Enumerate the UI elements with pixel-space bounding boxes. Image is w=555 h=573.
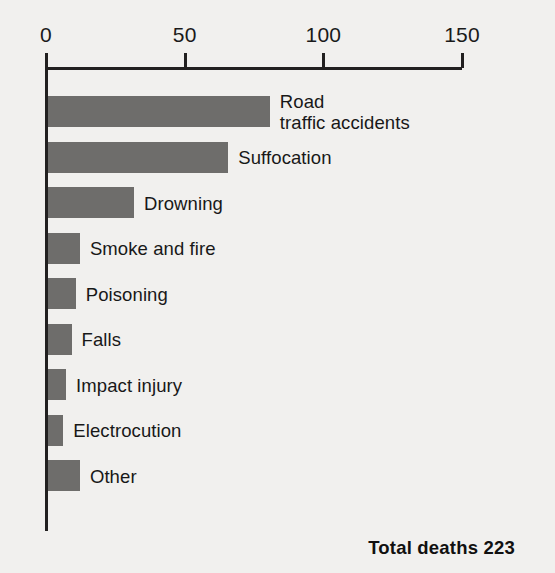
bar-label: Drowning: [144, 192, 223, 213]
bar-label: Suffocation: [238, 147, 331, 168]
bar-chart-figure: 050100150 Road traffic accidentsSuffocat…: [0, 0, 555, 573]
bar-label: Smoke and fire: [90, 238, 216, 259]
bar-label: Other: [90, 465, 137, 486]
bar-row[interactable]: Falls: [48, 324, 555, 355]
bar-rect[interactable]: [48, 187, 134, 218]
bar-rect[interactable]: [48, 415, 63, 446]
bar-row[interactable]: Drowning: [48, 187, 555, 218]
bar-row[interactable]: Road traffic accidents: [48, 96, 555, 127]
bar-row[interactable]: Impact injury: [48, 369, 555, 400]
bar-rect[interactable]: [48, 233, 80, 264]
bar-rect[interactable]: [48, 278, 76, 309]
bar-row[interactable]: Electrocution: [48, 415, 555, 446]
bar-row[interactable]: Poisoning: [48, 278, 555, 309]
bar-label: Road traffic accidents: [280, 91, 410, 133]
bar-label: Poisoning: [86, 283, 168, 304]
bars-container: Road traffic accidentsSuffocationDrownin…: [0, 0, 555, 573]
bar-row[interactable]: Other: [48, 460, 555, 491]
bar-rect[interactable]: [48, 96, 270, 127]
bar-row[interactable]: Smoke and fire: [48, 233, 555, 264]
bar-row[interactable]: Suffocation: [48, 142, 555, 173]
bar-rect[interactable]: [48, 460, 80, 491]
bar-label: Electrocution: [73, 420, 181, 441]
bar-label: Impact injury: [76, 374, 182, 395]
bar-rect[interactable]: [48, 142, 228, 173]
bar-rect[interactable]: [48, 324, 72, 355]
bar-rect[interactable]: [48, 369, 66, 400]
total-deaths-annotation: Total deaths 223: [368, 537, 515, 559]
bar-label: Falls: [82, 329, 122, 350]
